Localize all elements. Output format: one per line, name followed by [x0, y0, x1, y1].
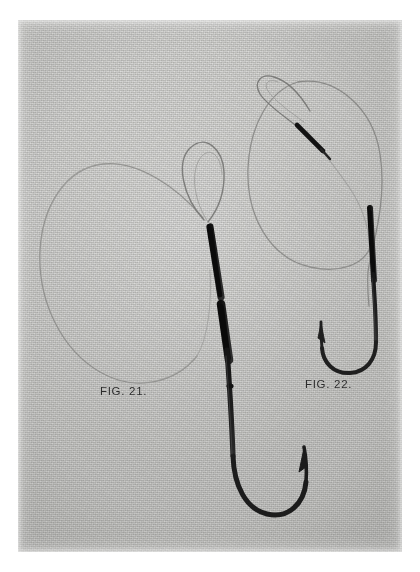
- fig21-hook-shank: [227, 350, 233, 456]
- figures-artwork: [18, 20, 402, 552]
- photographic-print: FIG. 21. FIG. 22.: [18, 20, 402, 552]
- fig22-hook-barb: [318, 323, 325, 343]
- fig21-shank-knot: [226, 383, 233, 388]
- figure-22-group: [248, 76, 382, 373]
- figure-21-caption: FIG. 21.: [100, 385, 147, 397]
- fig22-loop-whipping-taper: [321, 149, 330, 159]
- fig22-gut-leader-coil: [298, 81, 382, 306]
- fig22-gut-crossing-strand2: [307, 131, 369, 252]
- fig21-gut-tag: [197, 270, 210, 356]
- fig21-gut-leader-coil: [40, 164, 203, 383]
- plate-page: FIG. 21. FIG. 22.: [0, 0, 420, 572]
- fig21-gut-leader-coil-highlight: [41, 163, 204, 382]
- fig22-gut-leader-coil-lower: [248, 82, 369, 269]
- fig22-gut-crossing-strand: [306, 130, 369, 250]
- fig22-gut-terminal-loop-inner: [266, 81, 304, 122]
- fig22-loop-whipping: [297, 125, 323, 151]
- fig21-hook-bend: [233, 456, 306, 515]
- fig22-hook-bend: [322, 342, 376, 373]
- figure-22-caption: FIG. 22.: [305, 378, 352, 390]
- figure-21-group: [40, 142, 307, 515]
